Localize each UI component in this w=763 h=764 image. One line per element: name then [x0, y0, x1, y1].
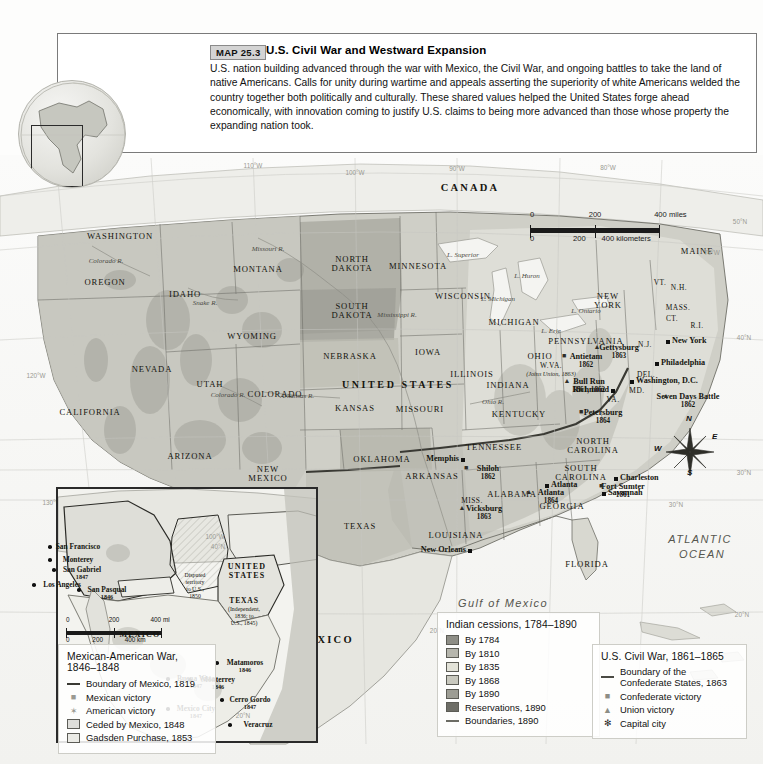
legend-swatch-icon — [446, 662, 459, 672]
legend-label: Confederate victory — [620, 691, 701, 702]
legend-row: By 1868 — [446, 675, 590, 686]
inset-city-marker — [32, 583, 36, 587]
legend-swatch-icon — [67, 733, 80, 743]
compass-rose: N E S W — [662, 424, 718, 480]
inset-scale-mi-1: 200 — [109, 616, 120, 623]
legend-row: By 1810 — [446, 648, 590, 659]
city-marker — [468, 549, 472, 553]
legend-row: ■Mexican victory — [67, 692, 206, 703]
battle-marker: ▲ — [662, 392, 670, 400]
legend-row: ■Confederate victory — [601, 691, 737, 702]
legend-line-icon — [446, 720, 459, 722]
scale-km-1: 200 — [573, 234, 586, 243]
main-scale-bar: 0 200 400 miles 0 200 400 kilometers — [530, 210, 660, 243]
legend-swatch-icon — [67, 719, 80, 729]
globe-locator-box — [31, 125, 83, 187]
inset-city-marker — [220, 698, 224, 702]
inset-city-marker — [228, 723, 232, 727]
inset-city-marker — [48, 545, 52, 549]
inset-scale-km-0: 0 — [66, 636, 70, 643]
mexican-victory-icon: ■ — [67, 692, 80, 702]
caption-box: MAP 25.3 U.S. Civil War and Westward Exp… — [57, 33, 757, 153]
legend-label: Gadsden Purchase, 1853 — [86, 732, 192, 743]
legend-row: Boundaries, 1890 — [446, 715, 590, 726]
battle-marker: ▲ — [563, 377, 571, 385]
battle-marker: ■ — [462, 464, 470, 472]
battle-marker: ■ — [597, 482, 605, 490]
legend-row: ✶American victory — [67, 705, 206, 716]
city-marker — [461, 458, 465, 462]
legend-swatch-icon — [446, 635, 459, 645]
legend-row: Gadsden Purchase, 1853 — [67, 732, 206, 743]
legend-label: By 1835 — [465, 661, 499, 672]
legend-label: Boundaries, 1890 — [465, 715, 539, 726]
legend-row: ✻Capital city — [601, 718, 737, 729]
battle-marker: ▲ — [525, 488, 533, 496]
legend-line-icon — [67, 683, 80, 685]
legend-label: Reservations, 1890 — [465, 702, 546, 713]
legend-label: By 1784 — [465, 634, 499, 645]
legend-label: American victory — [86, 705, 155, 716]
battle-marker: ■ — [560, 352, 568, 360]
legend-indian-cessions: Indian cessions, 1784–1890 By 1784By 181… — [437, 612, 600, 737]
map-title: U.S. Civil War and Westward Expansion — [266, 43, 742, 57]
legend-swatch-icon — [446, 689, 459, 699]
scale-mi-0: 0 — [530, 210, 534, 219]
battle-marker: ■ — [577, 408, 585, 416]
union-victory-icon: ▲ — [601, 705, 614, 715]
scale-mi-2: 400 miles — [654, 210, 687, 219]
battle-marker: ▲ — [458, 504, 466, 512]
map-description: U.S. nation building advanced through th… — [210, 62, 742, 133]
city-marker — [630, 380, 634, 384]
inset-city-marker — [77, 588, 81, 592]
legend-label: Capital city — [620, 718, 666, 729]
legend-row: Boundary of Mexico, 1819 — [67, 678, 206, 689]
legend-label: Boundary of Mexico, 1819 — [86, 678, 195, 689]
city-marker — [655, 362, 659, 366]
inset-scale-km-2: 400 km — [125, 636, 146, 643]
legend-row: By 1784 — [446, 634, 590, 645]
legend-label: By 1868 — [465, 675, 499, 686]
inset-city-marker — [52, 568, 56, 572]
legend-label: Mexican victory — [86, 692, 151, 703]
american-victory-icon: ✶ — [67, 706, 80, 716]
legend-civil-war-title: U.S. Civil War, 1861–1865 — [601, 651, 737, 662]
legend-indian-cessions-title: Indian cessions, 1784–1890 — [446, 619, 590, 630]
legend-row: Ceded by Mexico, 1848 — [67, 719, 206, 730]
legend-label: Ceded by Mexico, 1848 — [86, 719, 185, 730]
scale-km-2: 400 kilometers — [601, 234, 650, 243]
legend-label: Union victory — [620, 704, 674, 715]
legend-row: By 1890 — [446, 688, 590, 699]
inset-scale-km-1: 200 — [92, 636, 103, 643]
legend-mexican-war-title: Mexican-American War,1846–1848 — [67, 651, 206, 673]
legend-mexican-american-war: Mexican-American War,1846–1848 Boundary … — [58, 644, 216, 754]
city-marker — [614, 477, 618, 481]
globe-locator-inset — [18, 80, 126, 188]
inset-city-marker — [48, 558, 52, 562]
legend-swatch-icon — [446, 675, 459, 685]
city-marker — [611, 389, 615, 393]
legend-label: By 1810 — [465, 648, 499, 659]
inset-scale-bar: 0 200 400 mi 0 200 400 km — [66, 616, 162, 644]
capital-city-icon: ✻ — [601, 718, 614, 728]
legend-row: ▲Union victory — [601, 704, 737, 715]
city-marker — [666, 340, 670, 344]
legend-row: By 1835 — [446, 661, 590, 672]
legend-label: By 1890 — [465, 688, 499, 699]
inset-scale-mi-0: 0 — [66, 616, 70, 623]
legend-civil-war: U.S. Civil War, 1861–1865 Boundary of th… — [592, 644, 747, 739]
legend-row: Reservations, 1890 — [446, 702, 590, 713]
legend-swatch-icon — [446, 648, 459, 658]
legend-swatch-icon — [446, 702, 459, 712]
compass-rose-icon — [662, 424, 718, 480]
city-marker — [602, 492, 606, 496]
legend-row: Boundary of theConfederate States, 1863 — [601, 666, 737, 688]
legend-line-icon — [601, 676, 614, 678]
battle-marker: ▲ — [593, 343, 601, 351]
scale-mi-1: 200 — [589, 210, 602, 219]
city-marker — [545, 484, 549, 488]
confederate-victory-icon: ■ — [601, 691, 614, 701]
map-number-badge: MAP 25.3 — [210, 45, 266, 60]
scale-km-0: 0 — [530, 234, 534, 243]
legend-label: Boundary of theConfederate States, 1863 — [620, 666, 727, 688]
